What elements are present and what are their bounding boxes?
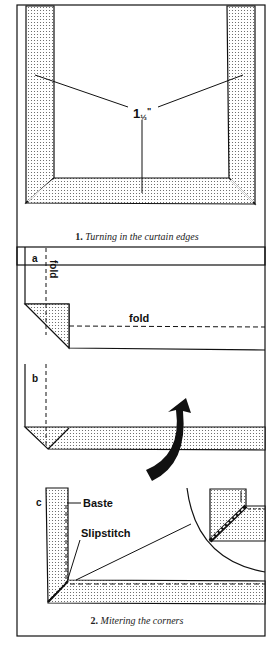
panel-c: c Baste Slipstitch: [36, 488, 265, 604]
left-hem: [26, 6, 54, 203]
diagram-canvas: 1½" 1. Turning in the curtain edges a fo…: [0, 0, 273, 648]
fold-vertical-label: fold: [48, 260, 59, 278]
panel-b-letter: b: [32, 373, 38, 384]
slipstitch-label: Slipstitch: [81, 527, 131, 539]
measurement-label: 1½": [133, 106, 151, 122]
panel-c-letter: c: [36, 497, 42, 508]
panel-b: b: [25, 364, 265, 481]
fold-horizontal-label: fold: [129, 312, 149, 324]
bottom-hem: [26, 178, 255, 204]
figure-1-caption: 1. Turning in the curtain edges: [75, 231, 198, 242]
figure-2: a fold fold b c Baste Slipstitch: [17, 247, 265, 636]
panel-a-letter: a: [32, 253, 38, 264]
figure-1: 1½" 1. Turning in the curtain edges: [17, 5, 265, 265]
baste-label: Baste: [83, 497, 113, 509]
panel-a: a fold fold: [25, 247, 265, 350]
magnified-corner: [210, 489, 265, 541]
figure-2-caption: 2. Mitering the corners: [91, 615, 184, 626]
right-hem: [227, 6, 255, 204]
